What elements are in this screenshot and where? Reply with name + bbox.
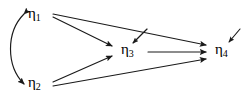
node-eta2: η2 [28, 75, 41, 90]
path-diagram: η1 η2 η3 η4 [0, 0, 247, 99]
path-eta2-to-eta3 [53, 56, 112, 82]
node-eta2-subscript: 2 [36, 81, 41, 92]
disturbance-eta4-icon [229, 29, 240, 42]
node-eta2-symbol: η [28, 74, 36, 90]
path-eta1-to-eta4 [53, 14, 206, 45]
node-eta1: η1 [28, 6, 41, 21]
node-eta3-symbol: η [121, 41, 129, 57]
node-eta4: η4 [215, 42, 228, 57]
node-eta3: η3 [121, 42, 134, 57]
node-eta4-symbol: η [215, 41, 223, 57]
node-eta3-subscript: 3 [129, 48, 134, 59]
node-eta4-subscript: 4 [223, 48, 228, 59]
node-eta1-symbol: η [28, 5, 36, 21]
covariance-eta1-eta2 [11, 14, 25, 84]
path-eta1-to-eta3 [53, 17, 112, 46]
node-eta1-subscript: 1 [36, 12, 41, 23]
